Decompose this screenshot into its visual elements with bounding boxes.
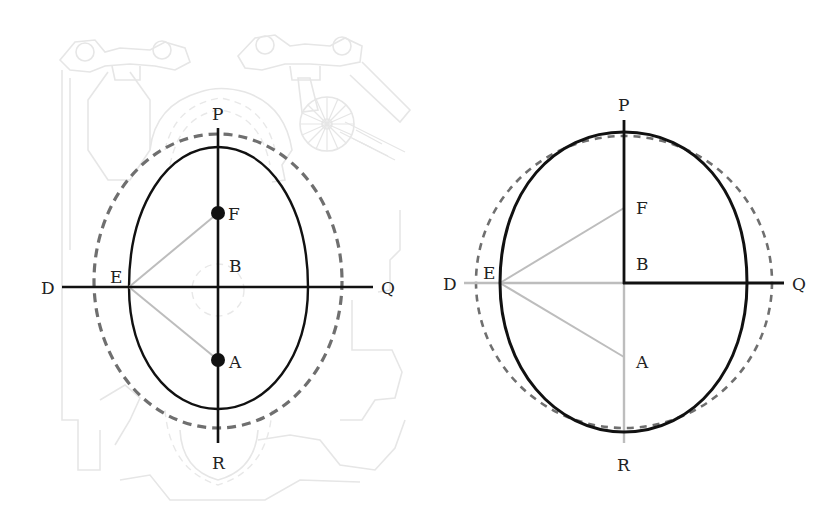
label-R: R (617, 455, 631, 475)
label-B: B (229, 256, 242, 276)
construction-line-E-F (500, 208, 624, 283)
label-D: D (41, 278, 55, 298)
label-F: F (636, 198, 648, 218)
label-E: E (110, 267, 122, 287)
label-A: A (635, 352, 649, 372)
construction-line-E-A (129, 287, 218, 360)
focus-point-A (211, 353, 225, 367)
label-B: B (636, 254, 649, 274)
focus-point-F (211, 206, 225, 220)
label-D: D (443, 274, 457, 294)
right-oval-diagram: P F B D E Q A R (443, 95, 806, 475)
label-A: A (228, 352, 242, 372)
construction-line-E-F (129, 213, 218, 287)
label-Q: Q (381, 278, 395, 298)
label-P: P (212, 104, 223, 124)
label-F: F (228, 204, 240, 224)
oval-construction-figure: P F B D E Q A R P F B D E Q A R (0, 0, 839, 512)
label-Q: Q (792, 274, 806, 294)
label-P: P (618, 95, 629, 115)
construction-line-E-A (500, 283, 624, 357)
label-E: E (483, 263, 495, 283)
label-R: R (212, 453, 226, 473)
